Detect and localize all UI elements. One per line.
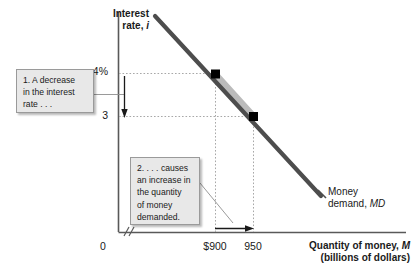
callout-2-line-1: 2. . . . causes [137,163,188,173]
point-marker-4pct-900 [211,70,220,79]
callout-2-line-2: an increase in [137,175,191,185]
quantity-right-arrow [215,225,254,231]
curve-label-symbol: MD [370,198,386,209]
money-demand-curve-label: Moneydemand, MD [328,186,385,210]
callout-2-leader-line [200,183,233,223]
x-tick-label-origin: 0 [95,240,111,252]
x-axis-title-line1: Quantity of money, [309,240,402,251]
x-axis-title-line2: (billions of dollars) [321,252,410,263]
y-axis-title-line1: Interest [113,8,149,19]
callout-2-line-5: demanded. [137,212,180,222]
x-axis-title-symbol: M [402,240,410,251]
y-axis-title: Interestrate, i [77,8,149,32]
money-demand-chart: Interestrate, i 4% 3 0 $900 950 Quantity… [0,0,413,279]
annotation-callout-1: 1. A decreasein the interestrate . . . [16,69,94,113]
annotation-callout-2: 2. . . . causesan increase inthe quantit… [130,157,200,225]
chart-plot-area [0,0,413,279]
callout-1-line-3: rate . . . [23,99,52,109]
callout-1-line-1: 1. A decrease [23,75,75,85]
y-axis-title-line2-prefix: rate, [122,20,146,31]
axis-break-marks [124,227,134,236]
interest-rate-down-arrow [121,76,127,118]
curve-label-line1: Money [328,186,358,197]
callout-2-line-3: the quantity [137,187,181,197]
point-marker-3pct-950 [249,112,258,121]
callout-1-line-2: in the interest [23,87,75,97]
x-axis-title: Quantity of money, M(billions of dollars… [262,240,410,264]
curve-label-line2-prefix: demand, [328,198,370,209]
demand-curve-highlight-segment [215,74,254,117]
y-axis-title-symbol: i [146,20,149,31]
callout-2-line-4: of money [137,200,172,210]
